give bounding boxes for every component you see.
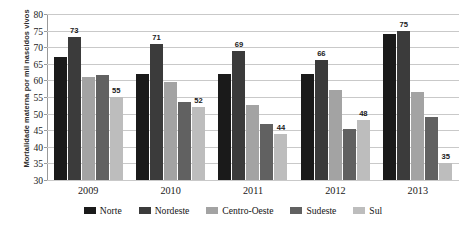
legend-item[interactable]: Nordeste [139,205,190,216]
bar-value-label: 69 [235,40,243,49]
y-axis-tick-label: 70 [33,42,43,53]
legend-label: Norte [100,205,122,216]
bar: 71 [150,44,163,180]
bar-value-label: 73 [70,26,78,35]
y-axis-tick-label: 45 [33,125,43,136]
bar-value-label: 66 [317,49,325,58]
legend-swatch [353,207,365,214]
bar-group: 73552009 [47,14,129,180]
x-axis-tick-label: 2011 [243,185,263,196]
y-axis-tickmark [44,180,47,181]
bar-value-label: 71 [152,33,160,42]
bar-value-label: 35 [442,152,450,161]
y-axis-tick-label: 35 [33,158,43,169]
y-axis-tick-label: 55 [33,92,43,103]
bar-group: 69442011 [212,14,294,180]
legend-label: Sul [369,205,382,216]
bar [164,82,177,180]
bar [178,102,191,180]
bar: 48 [357,120,370,180]
bar [82,77,95,180]
bar [54,57,67,180]
legend-swatch [139,207,151,214]
y-axis-title: Mortalidade materna por mil nascidos viv… [22,0,31,179]
y-axis-tick-label: 40 [33,141,43,152]
legend-item[interactable]: Centro-Oeste [206,205,273,216]
legend-label: Centro-Oeste [222,205,273,216]
bar-group: 66482012 [294,14,376,180]
gridline [47,180,459,181]
bar-value-label: 55 [112,86,120,95]
bar-value-label: 48 [359,109,367,118]
bar [260,124,273,180]
bar: 44 [274,134,287,180]
x-axis-tick-label: 2009 [78,185,98,196]
bar [246,105,259,180]
legend-label: Sudeste [306,205,336,216]
bar [218,74,231,180]
legend-swatch [206,207,218,214]
y-axis-tick-label: 60 [33,75,43,86]
x-axis-tick-label: 2010 [160,185,180,196]
legend-item[interactable]: Sudeste [290,205,336,216]
bar-value-label: 75 [400,20,408,29]
bar-value-label: 52 [194,96,202,105]
bar-group: 75352013 [377,14,459,180]
bar: 66 [315,60,328,180]
legend-item[interactable]: Sul [353,205,382,216]
bar: 75 [397,31,410,180]
y-axis-tick-label: 75 [33,25,43,36]
bar [329,90,342,180]
bar: 69 [232,51,245,180]
legend-item[interactable]: Norte [84,205,122,216]
bar [301,74,314,180]
bar-chart: Mortalidade materna por mil nascidos viv… [0,0,466,233]
bar [383,34,396,180]
bar [96,75,109,180]
bar: 52 [192,107,205,180]
y-axis-tick-label: 80 [33,9,43,20]
chart-legend: NorteNordesteCentro-OesteSudesteSul [0,205,466,216]
bar-group: 71522010 [129,14,211,180]
bar [411,92,424,180]
x-axis-tick-label: 2012 [325,185,345,196]
y-axis-tick-label: 50 [33,108,43,119]
bar: 73 [68,37,81,180]
legend-swatch [290,207,302,214]
bar [343,129,356,180]
bar [425,117,438,180]
plot-area: 8075706560555045403530735520097152201069… [47,14,459,181]
bar-value-label: 44 [277,123,285,132]
bar [136,74,149,180]
y-axis-tick-label: 65 [33,58,43,69]
y-axis-tick-label: 30 [33,175,43,186]
x-axis-tick-label: 2013 [408,185,428,196]
bar: 35 [439,163,452,180]
legend-swatch [84,207,96,214]
bar: 55 [110,97,123,180]
legend-label: Nordeste [155,205,190,216]
